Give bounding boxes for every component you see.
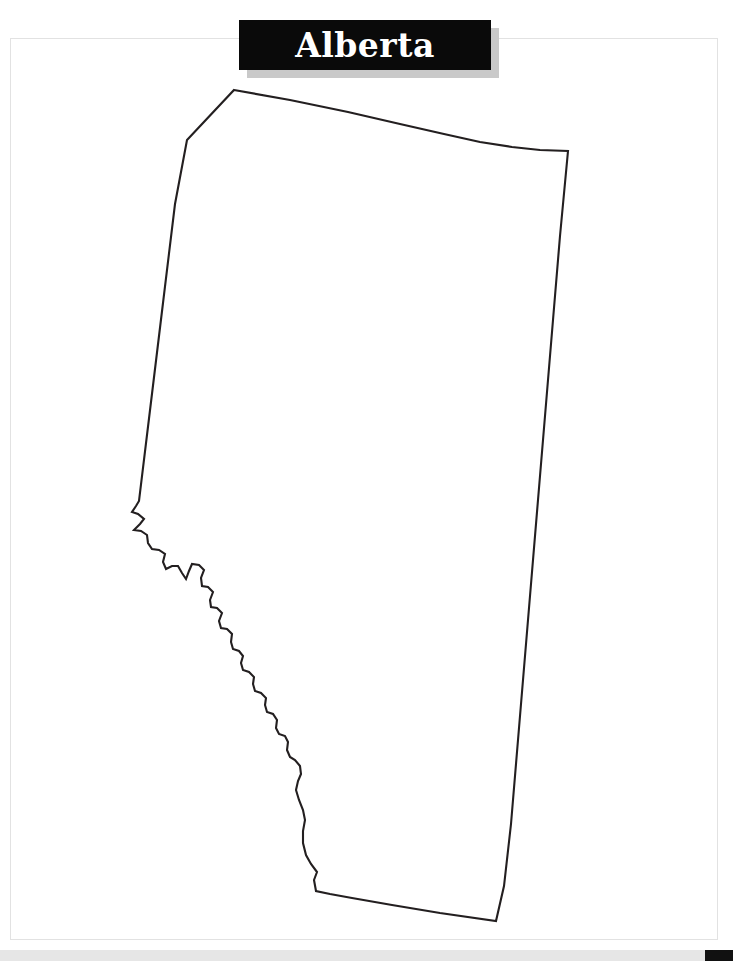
title-banner-group: Alberta [239,20,491,70]
footer-corner-mark [705,950,733,961]
worksheet-page: Alberta [0,0,733,961]
title-banner: Alberta [239,20,491,70]
footer-bar [0,950,733,961]
page-title: Alberta [295,29,435,62]
